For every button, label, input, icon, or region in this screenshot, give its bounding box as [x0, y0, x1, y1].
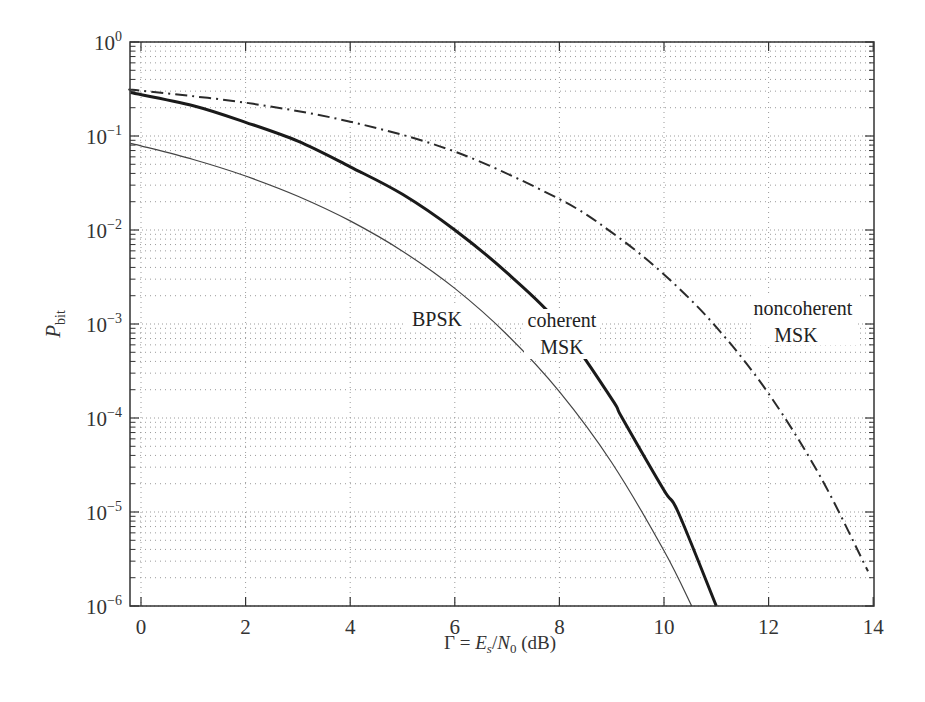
x-tick-label: 14: [863, 615, 885, 639]
y-tick-label: 10−3: [86, 311, 122, 337]
y-tick-label: 100: [94, 29, 122, 55]
y-tick-label: 10−6: [86, 593, 122, 619]
y-tick-label: 10−5: [86, 499, 122, 525]
bpsk-curve: [131, 143, 692, 606]
noncoherent-label-line2: MSK: [774, 324, 818, 346]
x-tick-label: 4: [345, 615, 356, 639]
x-axis-title: Γ = Es/N0 (dB): [444, 632, 556, 656]
bpsk-label: BPSK: [412, 308, 463, 330]
y-axis-title: Pbit: [41, 310, 68, 339]
x-tick-label: 0: [136, 615, 147, 639]
curves: [129, 90, 868, 606]
ber-chart: BPSK coherent MSK noncoherent MSK 10010−…: [0, 0, 925, 702]
y-tick-label: 10−4: [86, 405, 122, 431]
x-tick-label: 10: [654, 615, 675, 639]
y-tick-label: 10−2: [86, 217, 122, 243]
coherent-label-line2: MSK: [540, 336, 584, 358]
noncoherent-label-line1: noncoherent: [754, 297, 853, 319]
y-tick-label: 10−1: [86, 123, 122, 149]
x-tick-label: 12: [758, 615, 779, 639]
coherent-label-line1: coherent: [528, 309, 597, 331]
x-tick-label: 2: [240, 615, 251, 639]
coherent-msk-curve: [131, 93, 717, 607]
